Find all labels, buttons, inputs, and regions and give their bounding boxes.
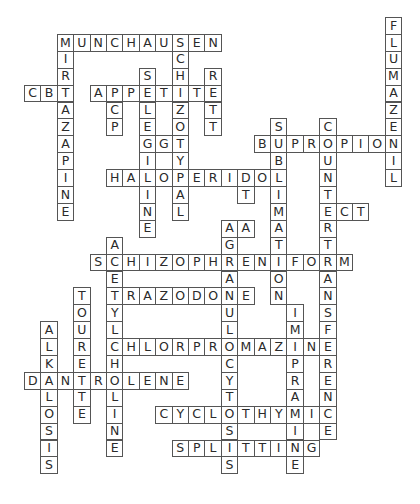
crossword-cell[interactable]: H: [172, 68, 189, 86]
crossword-cell[interactable]: O: [172, 287, 189, 305]
crossword-cell[interactable]: M: [237, 338, 254, 356]
crossword-cell[interactable]: Z: [155, 254, 172, 272]
crossword-cell[interactable]: E: [188, 34, 205, 52]
crossword-cell[interactable]: A: [237, 220, 254, 238]
crossword-cell[interactable]: R: [303, 135, 320, 153]
crossword-cell[interactable]: O: [172, 254, 189, 272]
crossword-cell[interactable]: U: [73, 34, 90, 52]
crossword-cell[interactable]: A: [254, 338, 271, 356]
crossword-cell[interactable]: T: [352, 203, 369, 221]
crossword-cell[interactable]: T: [204, 102, 221, 120]
crossword-cell[interactable]: H: [122, 34, 139, 52]
crossword-cell[interactable]: S: [90, 254, 107, 272]
crossword-cell[interactable]: E: [106, 271, 123, 289]
crossword-cell[interactable]: G: [139, 135, 156, 153]
crossword-cell[interactable]: Z: [270, 338, 287, 356]
crossword-cell[interactable]: T: [73, 287, 90, 305]
crossword-cell[interactable]: S: [221, 423, 238, 441]
crossword-cell[interactable]: L: [122, 372, 139, 390]
crossword-cell[interactable]: O: [319, 135, 336, 153]
crossword-cell[interactable]: L: [385, 169, 402, 187]
crossword-cell[interactable]: P: [188, 440, 205, 458]
crossword-cell[interactable]: T: [204, 118, 221, 136]
crossword-cell[interactable]: E: [204, 85, 221, 103]
crossword-cell[interactable]: B: [254, 135, 271, 153]
crossword-cell[interactable]: E: [57, 203, 74, 221]
crossword-cell[interactable]: A: [57, 135, 74, 153]
crossword-cell[interactable]: I: [270, 186, 287, 204]
crossword-cell[interactable]: I: [270, 254, 287, 272]
crossword-cell[interactable]: I: [286, 423, 303, 441]
crossword-cell[interactable]: N: [221, 287, 238, 305]
crossword-cell[interactable]: R: [90, 372, 107, 390]
crossword-cell[interactable]: R: [319, 355, 336, 373]
crossword-cell[interactable]: A: [385, 85, 402, 103]
crossword-cell[interactable]: U: [319, 152, 336, 170]
crossword-cell[interactable]: H: [254, 406, 271, 424]
crossword-cell[interactable]: A: [139, 287, 156, 305]
crossword-cell[interactable]: A: [40, 372, 57, 390]
crossword-cell[interactable]: P: [188, 254, 205, 272]
crossword-cell[interactable]: E: [188, 169, 205, 187]
crossword-cell[interactable]: N: [254, 254, 271, 272]
crossword-cell[interactable]: F: [286, 254, 303, 272]
crossword-cell[interactable]: T: [254, 440, 271, 458]
crossword-cell[interactable]: P: [286, 355, 303, 373]
crossword-cell[interactable]: O: [270, 271, 287, 289]
crossword-cell[interactable]: I: [303, 406, 320, 424]
crossword-cell[interactable]: Z: [155, 287, 172, 305]
crossword-cell[interactable]: I: [286, 304, 303, 322]
crossword-cell[interactable]: U: [221, 304, 238, 322]
crossword-cell[interactable]: I: [352, 135, 369, 153]
crossword-cell[interactable]: R: [204, 338, 221, 356]
crossword-cell[interactable]: T: [237, 440, 254, 458]
crossword-cell[interactable]: A: [40, 321, 57, 339]
crossword-cell[interactable]: L: [40, 389, 57, 407]
crossword-cell[interactable]: E: [319, 203, 336, 221]
crossword-cell[interactable]: I: [221, 169, 238, 187]
crossword-cell[interactable]: L: [40, 338, 57, 356]
crossword-cell[interactable]: N: [106, 423, 123, 441]
crossword-cell[interactable]: L: [139, 338, 156, 356]
crossword-cell[interactable]: A: [221, 271, 238, 289]
crossword-cell[interactable]: N: [319, 287, 336, 305]
crossword-cell[interactable]: O: [155, 169, 172, 187]
crossword-cell[interactable]: I: [139, 254, 156, 272]
crossword-cell[interactable]: H: [106, 355, 123, 373]
crossword-cell[interactable]: C: [336, 203, 353, 221]
crossword-cell[interactable]: D: [188, 287, 205, 305]
crossword-cell[interactable]: L: [106, 389, 123, 407]
crossword-cell[interactable]: C: [319, 406, 336, 424]
crossword-cell[interactable]: D: [237, 169, 254, 187]
crossword-cell[interactable]: M: [57, 34, 74, 52]
crossword-cell[interactable]: E: [139, 85, 156, 103]
crossword-cell[interactable]: O: [40, 406, 57, 424]
crossword-cell[interactable]: E: [106, 440, 123, 458]
crossword-cell[interactable]: Y: [270, 406, 287, 424]
crossword-cell[interactable]: S: [139, 68, 156, 86]
crossword-cell[interactable]: H: [122, 254, 139, 272]
crossword-cell[interactable]: O: [303, 254, 320, 272]
crossword-cell[interactable]: L: [106, 321, 123, 339]
crossword-cell[interactable]: C: [24, 85, 41, 103]
crossword-cell[interactable]: E: [139, 372, 156, 390]
crossword-cell[interactable]: T: [237, 406, 254, 424]
crossword-cell[interactable]: R: [319, 254, 336, 272]
crossword-cell[interactable]: N: [270, 287, 287, 305]
crossword-cell[interactable]: L: [204, 406, 221, 424]
crossword-cell[interactable]: G: [303, 440, 320, 458]
crossword-cell[interactable]: M: [385, 68, 402, 86]
crossword-cell[interactable]: O: [368, 135, 385, 153]
crossword-cell[interactable]: C: [106, 254, 123, 272]
crossword-cell[interactable]: P: [336, 135, 353, 153]
crossword-cell[interactable]: M: [286, 321, 303, 339]
crossword-cell[interactable]: S: [172, 440, 189, 458]
crossword-cell[interactable]: P: [172, 169, 189, 187]
crossword-cell[interactable]: S: [40, 423, 57, 441]
crossword-cell[interactable]: B: [40, 85, 57, 103]
crossword-cell[interactable]: E: [385, 118, 402, 136]
crossword-cell[interactable]: T: [73, 389, 90, 407]
crossword-cell[interactable]: N: [286, 440, 303, 458]
crossword-cell[interactable]: U: [270, 135, 287, 153]
crossword-cell[interactable]: R: [172, 338, 189, 356]
